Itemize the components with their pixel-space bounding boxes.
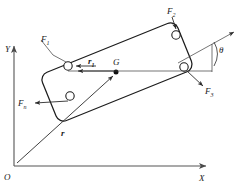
vector-r1-label-sub: 1: [92, 62, 95, 68]
y-axis-label: Y: [5, 44, 11, 54]
vector-r-arrow: [17, 76, 113, 163]
svg-text:r1: r1: [88, 56, 95, 68]
hole-f3: [180, 63, 188, 71]
force-fn-group: [35, 101, 68, 103]
theta-arc: [214, 42, 217, 66]
force-f2-label-sub: 2: [173, 12, 176, 18]
force-fn-label: Fn: [17, 98, 27, 110]
x-axis-label: X: [198, 173, 205, 183]
hole-f1: [64, 62, 72, 70]
force-f1-label-sub: 1: [47, 40, 50, 46]
svg-text:Fn: Fn: [17, 98, 27, 110]
force-f1-label: F1: [40, 34, 50, 46]
vector-r-label: r: [61, 128, 65, 138]
force-f3-arrow: [187, 71, 203, 86]
svg-text:F2: F2: [166, 6, 176, 18]
center-of-mass-dot: [114, 70, 119, 75]
force-f3-label: F3: [204, 86, 214, 98]
hole-f2: [172, 31, 180, 39]
force-f3-label-sub: 3: [210, 92, 214, 98]
vector-r1-label: r1: [88, 56, 95, 68]
coordinate-axes: [14, 46, 206, 166]
hole-fn: [66, 92, 74, 100]
center-of-mass-marker: [114, 70, 119, 75]
svg-text:F1: F1: [40, 34, 50, 46]
free-body-diagram-figure: Y X O G F1 F2 F3 Fn r1: [0, 0, 239, 189]
origin-label: O: [4, 172, 11, 182]
plate-holes: [64, 31, 188, 100]
force-f3-group: [187, 71, 203, 86]
center-of-mass-label: G: [113, 57, 120, 67]
angle-theta-label: θ: [219, 45, 224, 55]
force-fn-label-sub: n: [24, 104, 27, 110]
svg-text:F3: F3: [204, 86, 214, 98]
force-f2-label: F2: [166, 6, 176, 18]
force-fn-arrow: [35, 101, 68, 103]
